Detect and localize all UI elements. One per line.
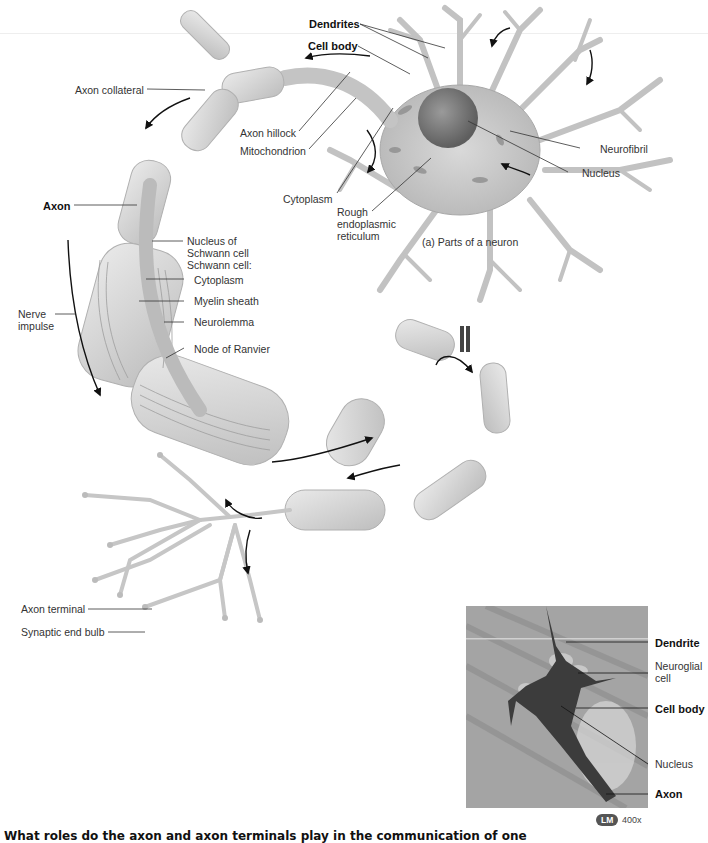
label-neurofibril: Neurofibril	[600, 143, 648, 155]
label-synaptic-end-bulb: Synaptic end bulb	[21, 626, 104, 638]
lm-badge: LM	[596, 814, 618, 826]
axon-collateral-shape	[177, 7, 234, 64]
label-axon-terminal: Axon terminal	[21, 603, 85, 615]
break-mark	[466, 326, 470, 352]
myelin-segment	[318, 391, 392, 474]
label-rough-er: Rough endoplasmic reticulum	[337, 206, 407, 242]
label-mitochondrion: Mitochondrion	[240, 145, 306, 157]
myelin-segment-cutaway	[121, 345, 299, 475]
figure-caption: (a) Parts of a neuron	[422, 236, 518, 248]
light-micrograph	[466, 606, 648, 808]
label-neurolemma: Neurolemma	[194, 316, 254, 328]
label-axon-hillock: Axon hillock	[240, 127, 296, 139]
label-cell-body: Cell body	[308, 40, 358, 52]
label-schwann-cell-header: Schwann cell:	[187, 259, 252, 271]
label-schwann-cytoplasm: Cytoplasm	[194, 274, 244, 286]
micro-label-dendrite: Dendrite	[655, 637, 700, 649]
nucleus-shape	[418, 88, 478, 148]
label-cytoplasm: Cytoplasm	[283, 193, 333, 205]
break-mark	[460, 326, 464, 352]
micro-label-cell-body: Cell body	[655, 703, 705, 715]
label-node-of-ranvier: Node of Ranvier	[194, 343, 270, 355]
myelin-segment	[409, 455, 492, 525]
micro-label-nucleus: Nucleus	[655, 758, 693, 770]
label-nucleus: Nucleus	[582, 167, 620, 179]
micro-label-axon: Axon	[655, 788, 683, 800]
axon-hillock-shape	[285, 75, 390, 120]
axon-terminals	[85, 455, 290, 620]
myelin-segment	[285, 490, 385, 530]
label-nucleus-of-schwann-cell: Nucleus of Schwann cell	[187, 235, 257, 259]
myelin-segment	[176, 84, 244, 157]
label-nerve-impulse: Nerve impulse	[18, 308, 60, 332]
micro-label-neuroglial-cell: Neuroglial cell	[655, 660, 705, 684]
label-axon: Axon	[43, 200, 71, 212]
myelin-segment	[479, 362, 511, 434]
label-axon-collateral: Axon collateral	[75, 84, 144, 96]
label-myelin-sheath: Myelin sheath	[194, 295, 259, 307]
magnification-label: 400x	[622, 815, 642, 825]
label-dendrites: Dendrites	[309, 18, 360, 30]
micrograph-image	[466, 606, 648, 808]
question-text: What roles do the axon and axon terminal…	[4, 829, 527, 843]
